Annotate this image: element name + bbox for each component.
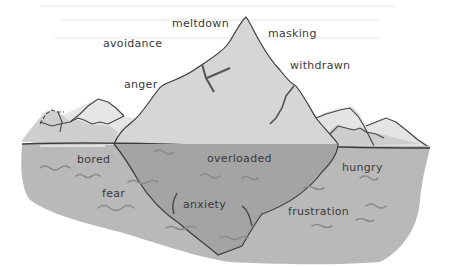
label-overloaded: overloaded xyxy=(207,153,272,164)
label-masking: masking xyxy=(268,28,317,39)
label-bored: bored xyxy=(77,154,110,165)
iceberg-illustration xyxy=(0,0,456,267)
label-withdrawn: withdrawn xyxy=(290,60,350,71)
iceberg-diagram: meltdown masking avoidance withdrawn ang… xyxy=(0,0,456,267)
label-anger: anger xyxy=(124,79,158,90)
label-fear: fear xyxy=(102,188,125,199)
label-anxiety: anxiety xyxy=(183,199,226,210)
label-meltdown: meltdown xyxy=(172,18,229,29)
label-frustration: frustration xyxy=(288,206,349,217)
label-avoidance: avoidance xyxy=(103,38,162,49)
label-hungry: hungry xyxy=(342,162,383,173)
